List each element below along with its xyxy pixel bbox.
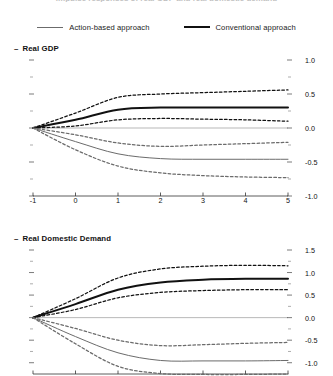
y-axis-labels-real-gdp: -1.0-0.50.00.51.0 [305, 44, 331, 214]
x-tick-label: -1 [30, 196, 36, 205]
y-axis-labels-real-domestic-demand: -1.0-0.50.00.51.01.5 [305, 234, 331, 376]
legend-line-icon-conventional [184, 26, 210, 28]
plot-svg-real-gdp [0, 44, 333, 214]
figure-root: Impulse responses of real GDP and real d… [0, 0, 333, 376]
plot-area-real-gdp [0, 44, 333, 214]
x-tick-label: 4 [244, 196, 248, 205]
legend-item-action-based: Action-based approach [37, 23, 149, 32]
legend-label-action-based: Action-based approach [69, 23, 149, 32]
y-tick-label: 0.0 [305, 124, 331, 133]
y-tick-label: 1.5 [305, 246, 331, 255]
y-tick-label: 0.5 [305, 90, 331, 99]
y-tick-label: -0.5 [305, 336, 331, 345]
x-tick-label: 2 [159, 196, 163, 205]
legend-line-icon-action-based [37, 27, 63, 28]
legend-label-conventional: Conventional approach [216, 23, 296, 32]
chart-panel-real-domestic-demand: –Real Domestic Demand -1.0-0.50.00.51.01… [0, 234, 333, 376]
y-tick-label: -0.5 [305, 158, 331, 167]
chart-panel-real-gdp: –Real GDP -1.0-0.50.00.51.0 -1012345 [0, 44, 333, 214]
legend-item-conventional: Conventional approach [184, 23, 296, 32]
plot-area-real-domestic-demand [0, 234, 333, 376]
chart-legend: Action-based approach Conventional appro… [0, 20, 333, 34]
x-tick-label: 3 [201, 196, 205, 205]
y-tick-label: -1.0 [305, 358, 331, 367]
plot-svg-real-domestic-demand [0, 234, 333, 376]
x-tick-label: 1 [116, 196, 120, 205]
x-tick-label: 0 [74, 196, 78, 205]
x-tick-label: 5 [286, 196, 290, 205]
y-tick-label: 1.0 [305, 56, 331, 65]
y-tick-label: 0.0 [305, 313, 331, 322]
figure-top-title: Impulse responses of real GDP and real d… [0, 0, 333, 2]
y-tick-label: 1.0 [305, 268, 331, 277]
x-axis-labels-real-gdp: -1012345 [0, 196, 333, 208]
y-tick-label: 0.5 [305, 291, 331, 300]
